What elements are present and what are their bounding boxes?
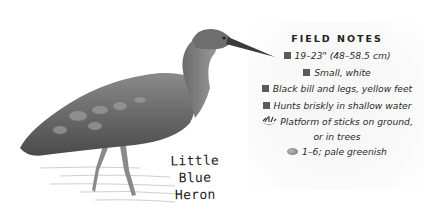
egg-icon [287, 148, 298, 155]
square-bullet-icon [263, 102, 270, 109]
field-notes: FIELD NOTES 19–23" (48–58.5 cm) Small, w… [252, 33, 422, 161]
caption-line-1: Little Blue [155, 151, 236, 186]
note-nest: Platform of sticks on ground, or in tree… [252, 114, 422, 144]
note-size: 19–23" (48–58.5 cm) [252, 48, 422, 65]
note-markings: Black bill and legs, yellow feet [252, 81, 422, 98]
square-bullet-icon [284, 52, 291, 59]
field-guide-page: Little Blue Heron FIELD NOTES 19–23" (48… [0, 0, 424, 215]
nest-icon [261, 116, 277, 126]
caption-line-2: Heron [155, 185, 235, 203]
square-bullet-icon [262, 85, 269, 92]
square-bullet-icon [303, 69, 310, 76]
field-notes-title: FIELD NOTES [252, 33, 422, 44]
note-behavior: Hunts briskly in shallow water [252, 98, 422, 115]
note-eggs: 1–6; pale greenish [252, 144, 422, 161]
note-appearance: Small, white [252, 65, 422, 82]
heron-illustration [0, 18, 290, 215]
species-caption: Little Blue Heron [155, 151, 236, 203]
